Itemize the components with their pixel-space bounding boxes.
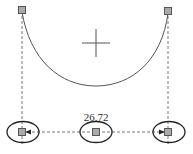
arc-start-handle[interactable] (19, 7, 26, 14)
dimension-handle-middle[interactable] (93, 129, 100, 136)
dimension-value-label[interactable]: 26.72 (84, 111, 109, 123)
dimension-handle-left[interactable] (19, 129, 26, 136)
dimension-handle-right[interactable] (165, 129, 172, 136)
center-mark-icon[interactable] (82, 29, 110, 57)
sketch-canvas[interactable]: 26.72 (0, 0, 193, 154)
sketch-arc[interactable] (22, 12, 168, 86)
arc-end-handle[interactable] (165, 8, 172, 15)
